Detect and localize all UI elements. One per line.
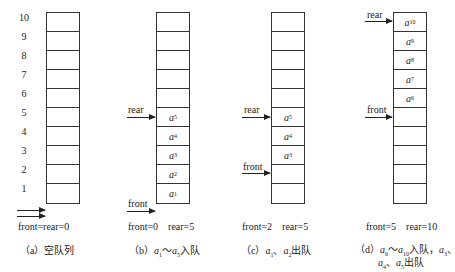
queue-cell: a5 — [272, 108, 304, 127]
caption-c: （c）a1、a2出队 — [241, 242, 311, 258]
status-a: front=rear=0 — [18, 221, 69, 232]
queue-cell — [272, 184, 304, 203]
index-3: 3 — [14, 145, 34, 156]
caption-a: （a）空队列 — [20, 242, 74, 257]
rear-arrow-icon — [242, 117, 270, 118]
queue-cell: a8 — [394, 51, 426, 70]
index-9: 9 — [14, 31, 34, 42]
front-arrow-icon — [127, 211, 155, 212]
index-7: 7 — [14, 69, 34, 80]
queue-cell — [47, 51, 79, 70]
queue-cell — [272, 51, 304, 70]
queue-cell — [47, 13, 79, 32]
queue-cell — [272, 70, 304, 89]
queue-cell — [394, 165, 426, 184]
index-1: 1 — [14, 183, 34, 194]
queue-cell — [394, 127, 426, 146]
queue-cell — [47, 89, 79, 108]
queue-cell — [47, 108, 79, 127]
index-4: 4 — [14, 126, 34, 137]
index-8: 8 — [14, 50, 34, 61]
queue-cell — [47, 127, 79, 146]
rear-arrow-icon — [127, 117, 155, 118]
rear-arrow-icon — [17, 216, 45, 217]
front-label-b: front — [128, 198, 147, 209]
queue-cell: a5 — [157, 108, 189, 127]
queue-cell — [47, 184, 79, 203]
queue-cell: a4 — [272, 127, 304, 146]
queue-cell: a3 — [157, 146, 189, 165]
rear-label-b: rear — [128, 104, 144, 115]
queue-cell: a3 — [272, 146, 304, 165]
front-arrow-icon — [17, 210, 45, 211]
queue-cell — [157, 70, 189, 89]
index-6: 6 — [14, 88, 34, 99]
index-5: 5 — [14, 107, 34, 118]
front-arrow-icon — [365, 117, 392, 118]
queue-cell: a10 — [394, 13, 426, 32]
rear-arrow-icon — [365, 21, 392, 22]
queue-cell — [157, 32, 189, 51]
queue-a — [46, 12, 80, 204]
front-label-d: front — [367, 104, 386, 115]
index-2: 2 — [14, 164, 34, 175]
queue-cell — [394, 108, 426, 127]
queue-cell — [272, 13, 304, 32]
status-d: front=5 rear=10 — [366, 221, 437, 232]
caption-b: （b）a1～a5入队 — [129, 242, 200, 258]
queue-cell — [272, 32, 304, 51]
index-10: 10 — [14, 12, 34, 23]
queue-cell — [47, 32, 79, 51]
queue-cell — [272, 165, 304, 184]
status-b: front=0 rear=5 — [128, 221, 194, 232]
queue-cell: a4 — [157, 127, 189, 146]
queue-cell — [47, 146, 79, 165]
queue-cell — [157, 13, 189, 32]
queue-cell: a2 — [157, 165, 189, 184]
queue-cell — [47, 165, 79, 184]
status-c: front=2 rear=5 — [242, 221, 308, 232]
queue-b: a5 a4 a3 a2 a1 — [156, 12, 190, 204]
queue-cell: a6 — [394, 89, 426, 108]
queue-c: a5 a4 a3 — [271, 12, 305, 204]
queue-cell — [394, 184, 426, 203]
queue-d: a10 a9 a8 a7 a6 — [393, 12, 427, 204]
front-label-c: front — [243, 161, 262, 172]
queue-cell: a1 — [157, 184, 189, 203]
front-arrow-icon — [242, 173, 270, 174]
queue-cell — [47, 70, 79, 89]
queue-cell — [272, 89, 304, 108]
rear-label-c: rear — [244, 104, 260, 115]
queue-cell: a7 — [394, 70, 426, 89]
queue-cell — [157, 51, 189, 70]
queue-cell — [394, 146, 426, 165]
queue-cell: a9 — [394, 32, 426, 51]
queue-cell — [157, 89, 189, 108]
rear-label-d: rear — [367, 9, 383, 20]
caption-d-line2: a4、a5出队 — [378, 254, 424, 270]
